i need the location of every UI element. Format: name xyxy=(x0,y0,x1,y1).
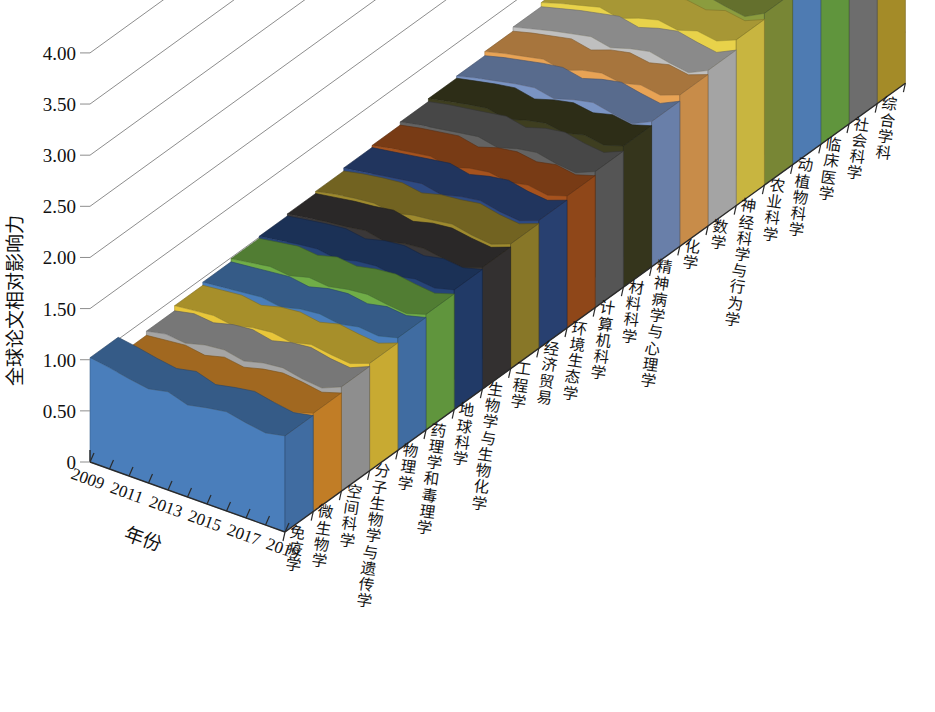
series-end-cap xyxy=(454,270,482,410)
series-label-char: 学 xyxy=(416,518,434,538)
series-label: 综合学科 xyxy=(874,94,899,163)
series-label-char: 学 xyxy=(681,253,699,273)
series-label-char: 学 xyxy=(510,392,528,412)
chart-container: 00.501.001.502.002.503.003.504.00 200920… xyxy=(0,0,935,712)
series-label-char: 学 xyxy=(620,327,638,347)
series-end-cap xyxy=(680,75,708,247)
x-axis-title: 年份 xyxy=(121,523,164,556)
series-label-char: 学 xyxy=(284,555,302,575)
series-label-char: 学 xyxy=(761,225,779,245)
series-label: 地球科学 xyxy=(451,400,476,469)
series-end-cap xyxy=(511,224,539,369)
series-label-char: 学 xyxy=(590,363,608,383)
series-end-cap xyxy=(398,318,426,451)
series-ribbons xyxy=(90,0,905,532)
y-axis-tick-label: 2.50 xyxy=(43,196,76,217)
series-label-char: 学 xyxy=(709,233,727,253)
y-axis-title: 全球论文相对影响力 xyxy=(5,215,26,386)
series-end-cap xyxy=(708,50,736,226)
series-end-cap xyxy=(849,0,877,124)
series-end-cap xyxy=(877,0,905,104)
series-end-cap xyxy=(595,151,623,307)
series-label-char: 学 xyxy=(355,592,373,612)
series-label-char: 学 xyxy=(397,474,415,494)
series-label-char: 学 xyxy=(338,531,356,551)
series-end-cap xyxy=(736,20,764,206)
y-axis-tick-label: 3.00 xyxy=(43,145,76,166)
series-label-char: 学 xyxy=(470,494,488,514)
series-label: 经济贸易 xyxy=(536,339,561,408)
series-label-char: 学 xyxy=(561,384,579,404)
series-label-char: 学 xyxy=(818,184,836,204)
series-label: 空间科学 xyxy=(338,482,363,551)
series-end-cap xyxy=(426,294,454,430)
x-axis-tick-label: 2015 xyxy=(186,506,224,535)
series-end-cap xyxy=(482,247,510,389)
x-axis-tick-label: 2011 xyxy=(108,478,146,507)
series-label: 农业科学 xyxy=(761,176,786,245)
series-end-cap xyxy=(793,0,821,165)
x-axis-tick-label: 2013 xyxy=(147,492,185,521)
series-end-cap xyxy=(341,367,369,492)
series-label-char: 学 xyxy=(787,221,805,241)
series-label-char: 科 xyxy=(874,143,892,163)
x-axis-tick-label: 2009 xyxy=(69,464,107,493)
y-axis-tick-labels: 00.501.001.502.002.503.003.504.00 xyxy=(43,43,90,473)
y-axis-tick-label: 1.00 xyxy=(43,350,76,371)
series-label: 社会科学 xyxy=(846,115,871,184)
series-end-cap xyxy=(539,200,567,348)
y-axis-tick-label: 3.50 xyxy=(43,94,76,115)
series-label: 微生物学 xyxy=(310,502,335,571)
series-end-cap xyxy=(623,126,651,288)
area-chart-3d: 00.501.001.502.002.503.003.504.00 200920… xyxy=(0,0,935,712)
series-label: 材料科学 xyxy=(620,278,645,347)
series-end-cap xyxy=(821,0,849,144)
series-label-char: 学 xyxy=(846,164,864,184)
series-label-char: 学 xyxy=(724,310,742,330)
series-label: 精神病学与心理学 xyxy=(639,258,673,392)
x-axis-tick-label: 2017 xyxy=(225,520,264,550)
series-label: 生物学与生物化学 xyxy=(470,380,504,514)
series-label-char: 易 xyxy=(536,388,554,408)
series-label: 化学 xyxy=(681,237,702,273)
y-axis-title-text: 全球论文相对影响力 xyxy=(5,215,26,386)
y-axis-tick-label: 1.50 xyxy=(43,299,76,320)
series-end-cap xyxy=(567,176,595,328)
series-end-cap xyxy=(764,0,792,185)
series-label-char: 学 xyxy=(639,371,657,391)
series-label: 药理学和毒理学 xyxy=(416,421,448,538)
series-label: 临床医学 xyxy=(818,135,843,204)
series-label-char: 学 xyxy=(310,551,328,571)
series-end-cap xyxy=(370,343,398,471)
y-axis-tick-label: 0.50 xyxy=(43,401,76,422)
y-axis-tick-label: 2.00 xyxy=(43,247,76,268)
series-label: 神经科学与行为学 xyxy=(724,196,758,330)
series-end-cap xyxy=(652,101,680,267)
x-axis-title-text: 年份 xyxy=(121,523,164,556)
series-label-char: 学 xyxy=(451,449,469,469)
series-label: 数学 xyxy=(709,217,730,253)
y-axis-tick-label: 4.00 xyxy=(43,43,76,64)
